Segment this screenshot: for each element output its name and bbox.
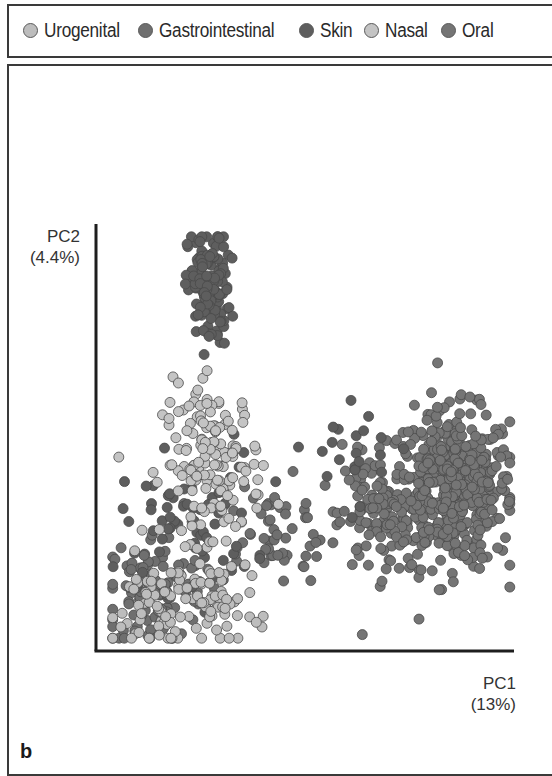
data-point [152,477,162,487]
data-point [195,559,205,569]
data-point [505,458,515,468]
data-point [477,553,487,563]
data-point [347,560,357,570]
data-point [148,467,158,477]
data-point [241,466,251,476]
data-point [377,576,387,586]
data-point [238,417,248,427]
data-point [420,486,430,496]
data-point [204,331,214,341]
data-point [192,471,202,481]
data-point [247,571,257,581]
data-point [131,574,141,584]
data-point [136,609,146,619]
data-point [364,411,374,421]
data-point [381,564,391,574]
data-point [116,622,126,632]
data-point [437,445,447,455]
data-point [481,410,491,420]
data-point [224,513,234,523]
x-axis-title: PC1 [471,673,516,694]
data-point [496,452,506,462]
data-point [165,512,175,522]
data-point [134,628,144,638]
data-point [162,502,172,512]
data-point [491,461,501,471]
data-point [129,584,139,594]
data-point [459,500,469,510]
data-point [198,444,208,454]
data-point [364,530,374,540]
data-point [486,495,496,505]
data-point [294,442,304,452]
data-point [108,633,118,643]
data-point [281,509,291,519]
data-point [227,562,237,572]
data-point [475,564,485,574]
data-point [357,630,367,640]
data-point [505,560,515,570]
data-point [279,576,289,586]
data-point [288,467,298,477]
data-point [227,448,237,458]
data-point [505,582,515,592]
data-point [340,466,350,476]
data-point [195,237,205,247]
data-point [141,481,151,491]
data-point [312,552,322,562]
data-point [166,568,176,578]
data-point [220,603,230,613]
data-point [351,545,361,555]
data-point [273,499,283,509]
data-point [467,482,477,492]
data-point [354,457,364,467]
data-point [161,612,171,622]
data-point [423,458,433,468]
data-point [432,402,442,412]
data-point [206,606,216,616]
data-point [118,504,128,514]
data-point [427,388,437,398]
data-point [456,423,466,433]
data-point [374,494,384,504]
data-point [160,443,170,453]
data-point [455,409,465,419]
data-point [137,525,147,535]
data-point [197,598,207,608]
data-point [182,239,192,249]
data-point [328,538,338,548]
data-point [193,310,203,320]
data-point [211,426,221,436]
data-point [154,630,164,640]
data-point [228,473,238,483]
data-point [433,358,443,368]
data-point [124,599,134,609]
data-point [250,441,260,451]
data-point [210,519,220,529]
data-point [368,503,378,513]
y-axis-title: PC2 [30,226,80,247]
data-point [414,614,424,624]
data-point [361,541,371,551]
data-point [212,625,222,635]
y-axis-variance: (4.4%) [30,247,80,268]
data-point [407,560,417,570]
data-point [228,311,238,321]
data-point [173,486,183,496]
data-point [335,517,345,527]
data-point [493,543,503,553]
data-point [488,433,498,443]
data-point [124,517,134,527]
data-point [475,525,485,535]
data-point [223,416,233,426]
data-point [216,501,226,511]
data-point [436,555,446,565]
data-point [222,285,232,295]
data-point [227,425,237,435]
data-point [154,621,164,631]
data-point [337,439,347,449]
data-point [424,525,434,535]
data-point [259,533,269,543]
data-point [222,594,232,604]
data-point [448,577,458,587]
